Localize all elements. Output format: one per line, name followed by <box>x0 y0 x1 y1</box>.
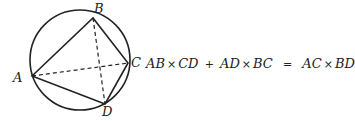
term-bc: BC <box>253 56 273 71</box>
point-label-b: B <box>94 1 104 16</box>
times-sign: × <box>240 58 253 71</box>
diagonal-ac <box>32 63 128 76</box>
equals-sign: = <box>277 58 298 71</box>
term-ad: AD <box>220 56 240 71</box>
times-sign: × <box>322 58 335 71</box>
point-label-a: A <box>13 70 22 85</box>
term-ab: AB <box>146 56 165 71</box>
point-label-c: C <box>131 55 141 70</box>
term-ac: AC <box>302 56 321 71</box>
quadrilateral-abcd <box>32 18 128 104</box>
point-label-d: D <box>102 104 112 119</box>
ptolemy-formula: AB×CD + AD×BC = AC×BD <box>146 56 355 71</box>
times-sign: × <box>165 58 178 71</box>
term-bd: BD <box>335 56 355 71</box>
term-cd: CD <box>178 56 198 71</box>
plus-sign: + <box>203 58 216 71</box>
